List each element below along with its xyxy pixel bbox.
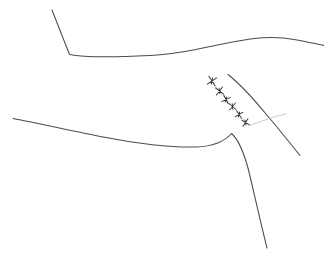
sketch-svg: [0, 0, 324, 253]
drawing-canvas: [0, 0, 324, 253]
